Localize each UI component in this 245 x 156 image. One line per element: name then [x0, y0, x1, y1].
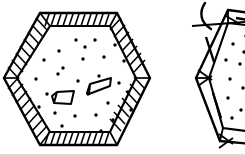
figure-canvas: Two hexagonal panels drawn in ink: a com…	[0, 0, 245, 156]
nail-icon-left	[52, 91, 74, 104]
hexagon-panel-drawing	[0, 0, 245, 156]
